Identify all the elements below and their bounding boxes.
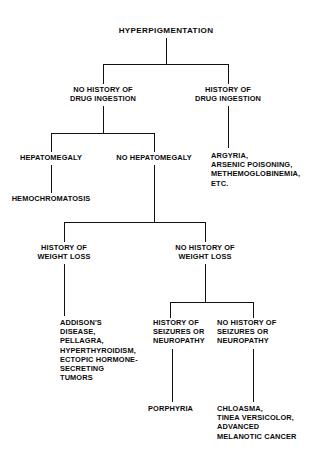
- connector-history-weight-loss-stem: [64, 264, 65, 316]
- connector-level1-left-drop: [103, 64, 104, 84]
- connector-seizures-left-drop: [170, 302, 171, 318]
- connector-hepatomegaly-right-drop: [154, 133, 155, 152]
- connector-level1-bar: [103, 64, 229, 65]
- connector-hepatomegaly-left-drop: [51, 133, 52, 152]
- connector-seizures-stem: [172, 349, 173, 402]
- connector-seizures-bar: [170, 302, 254, 303]
- node-no-history-seizures-neuropathy: NO HISTORY OF SEIZURES OR NEUROPATHY: [217, 318, 307, 346]
- connector-level1-right-drop: [228, 64, 229, 84]
- node-history-seizures-neuropathy: HISTORY OF SEIZURES OR NEUROPATHY: [153, 318, 223, 346]
- node-no-history-drug-ingestion: NO HISTORY OF DRUG INGESTION: [43, 85, 163, 103]
- hyperpigmentation-flowchart: HYPERPIGMENTATION NO HISTORY OF DRUG ING…: [0, 0, 327, 463]
- connector-weight-loss-bar: [64, 222, 206, 223]
- node-drug-induced-causes: ARGYRIA, ARSENIC POISONING, METHEMOGLOBI…: [211, 151, 327, 188]
- node-no-hepatomegaly: NO HEPATOMEGALY: [101, 153, 207, 162]
- node-history-weight-loss: HISTORY OF WEIGHT LOSS: [9, 243, 119, 261]
- connector-no-weight-loss-stem: [205, 264, 206, 303]
- connector-hepatomegaly-stem: [51, 165, 52, 193]
- connector-weight-loss-right-drop: [205, 222, 206, 242]
- connector-weight-loss-left-drop: [64, 222, 65, 242]
- node-hemochromatosis: HEMOCHROMATOSIS: [0, 194, 111, 203]
- connector-root-stem: [166, 38, 167, 65]
- connector-no-seizures-stem: [253, 349, 254, 402]
- connector-no-hepatomegaly-stem: [154, 165, 155, 223]
- node-other-skin-causes: CHLOASMA, TINEA VERSICOLOR, ADVANCED MEL…: [217, 404, 327, 441]
- node-root-hyperpigmentation: HYPERPIGMENTATION: [81, 26, 251, 35]
- node-history-drug-ingestion: HISTORY OF DRUG INGESTION: [168, 85, 288, 103]
- connector-seizures-right-drop: [253, 302, 254, 318]
- node-porphyria: PORPHYRIA: [148, 404, 218, 413]
- connector-no-drug-stem: [103, 106, 104, 134]
- node-no-history-weight-loss: NO HISTORY OF WEIGHT LOSS: [146, 243, 264, 261]
- connector-history-drug-stem: [228, 106, 229, 148]
- node-hepatomegaly: HEPATOMEGALY: [3, 153, 99, 162]
- connector-hepatomegaly-bar: [51, 133, 155, 134]
